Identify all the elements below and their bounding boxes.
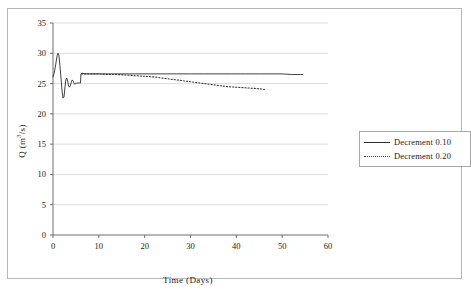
- series-line-2: [81, 74, 266, 90]
- gridlines: [53, 23, 328, 205]
- y-tick-label: 5: [24, 201, 46, 210]
- y-tick-label: 15: [24, 140, 46, 149]
- y-tick-label: 35: [24, 19, 46, 28]
- data-series-layer: [53, 53, 303, 98]
- x-tick-label: 0: [41, 242, 65, 251]
- x-tick-label: 20: [133, 242, 157, 251]
- y-axis-title-pre: Q (m: [17, 138, 27, 158]
- axis-ticks: [50, 23, 328, 238]
- y-tick-label: 30: [24, 49, 46, 58]
- x-tick-label: 50: [270, 242, 294, 251]
- series-line-1: [53, 53, 303, 98]
- chart-frame: 05101520253035 0102030405060 Time (Days)…: [7, 8, 462, 279]
- legend-item-decrement-020: Decrement 0.20: [362, 149, 468, 163]
- x-tick-label: 60: [316, 242, 340, 251]
- y-tick-label: 20: [24, 110, 46, 119]
- legend-label: Decrement 0.20: [394, 151, 451, 161]
- x-tick-label: 30: [179, 242, 203, 251]
- x-axis-title: Time (Days): [8, 275, 368, 285]
- legend-line-swatch-solid: [364, 137, 390, 147]
- x-tick-label: 40: [224, 242, 248, 251]
- y-tick-label: 0: [24, 231, 46, 240]
- y-axis-title-exponent: 3: [15, 134, 22, 138]
- y-axis-title: Q (m3/s): [15, 106, 27, 176]
- y-axis-title-post: /s): [17, 124, 27, 134]
- axis-lines: [53, 23, 328, 235]
- y-tick-label: 10: [24, 170, 46, 179]
- legend-line-swatch-dotted: [364, 151, 390, 161]
- y-tick-label: 25: [24, 80, 46, 89]
- x-tick-label: 10: [87, 242, 111, 251]
- chart-legend: Decrement 0.10 Decrement 0.20: [359, 131, 471, 167]
- legend-label: Decrement 0.10: [394, 137, 451, 147]
- legend-item-decrement-010: Decrement 0.10: [362, 135, 468, 149]
